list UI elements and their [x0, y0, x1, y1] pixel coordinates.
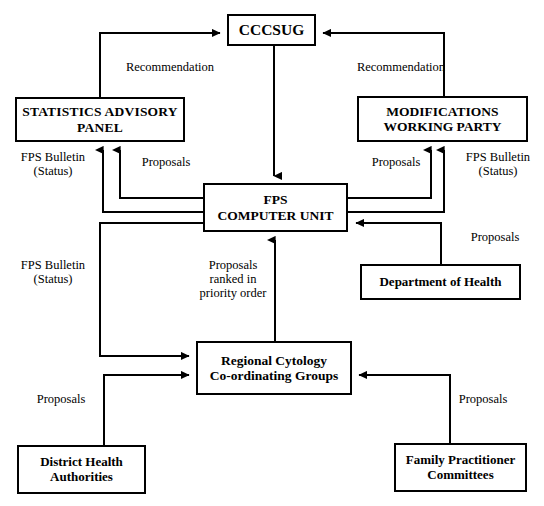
- edge-label-recommendation-left: Recommendation: [105, 60, 235, 74]
- edge-label-fps-bulletin-status-lower-left: FPS Bulletin (Status): [10, 258, 96, 286]
- edge-dha-to-rccg-proposals: [104, 375, 189, 445]
- edge-label-proposals-department-of-health: Proposals: [455, 230, 535, 244]
- node-fps-computer-unit[interactable]: FPS COMPUTER UNIT: [203, 183, 348, 232]
- node-statistics-advisory-panel[interactable]: STATISTICS ADVISORY PANEL: [15, 97, 185, 142]
- edge-label-recommendation-right: Recommendation: [336, 60, 466, 74]
- flow-diagram-canvas: CCCSUG STATISTICS ADVISORY PANEL MODIFIC…: [0, 0, 544, 506]
- node-district-health-authorities-label: District Health Authorities: [19, 455, 144, 484]
- node-department-of-health[interactable]: Department of Health: [360, 264, 521, 300]
- node-regional-cytology-coordinating-groups-label: Regional Cytology Co-ordinating Groups: [198, 353, 350, 383]
- connector-layer: [0, 0, 544, 506]
- edge-label-fps-bulletin-status-right-upper: FPS Bulletin (Status): [455, 150, 541, 178]
- edge-label-proposals-left-upper: Proposals: [128, 155, 204, 169]
- node-district-health-authorities[interactable]: District Health Authorities: [17, 445, 146, 494]
- edge-label-proposals-right-upper: Proposals: [358, 155, 434, 169]
- node-department-of-health-label: Department of Health: [362, 275, 519, 290]
- edge-label-proposals-family-practitioner: Proposals: [440, 392, 526, 406]
- edge-fpc-to-rccg-proposals: [359, 375, 450, 443]
- edge-label-fps-bulletin-status-left-upper: FPS Bulletin (Status): [10, 150, 96, 178]
- edge-doh-to-fps-proposals: [356, 223, 441, 264]
- node-cccsug-label: CCCSUG: [229, 21, 314, 38]
- node-statistics-advisory-panel-label: STATISTICS ADVISORY PANEL: [17, 104, 183, 134]
- node-cccsug[interactable]: CCCSUG: [227, 14, 316, 46]
- edge-fps-to-rccg-bulletin: [100, 223, 203, 356]
- node-modifications-working-party[interactable]: MODIFICATIONS WORKING PARTY: [357, 96, 528, 142]
- node-fps-computer-unit-label: FPS COMPUTER UNIT: [205, 192, 346, 222]
- node-family-practitioner-committees-label: Family Practitioner Committees: [396, 453, 525, 482]
- node-family-practitioner-committees[interactable]: Family Practitioner Committees: [394, 443, 527, 492]
- edge-label-proposals-district-health: Proposals: [18, 392, 104, 406]
- edge-label-proposals-ranked-priority: Proposals ranked in priority order: [190, 258, 276, 300]
- node-regional-cytology-coordinating-groups[interactable]: Regional Cytology Co-ordinating Groups: [196, 341, 352, 395]
- node-modifications-working-party-label: MODIFICATIONS WORKING PARTY: [359, 104, 526, 134]
